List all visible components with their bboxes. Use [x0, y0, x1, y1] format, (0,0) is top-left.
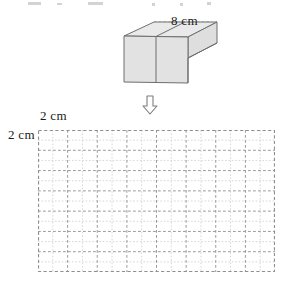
page-top-scan-artifact [0, 0, 292, 9]
solid-figure-two-cubes [96, 12, 222, 94]
arrow-down-outline-icon [139, 94, 161, 116]
worksheet-page: 8 cm 2 cm 2 cm [0, 0, 292, 291]
transition-arrow [139, 94, 161, 116]
grid-label-left-2cm: 2 cm [8, 127, 35, 143]
grid-label-top-2cm: 2 cm [40, 108, 67, 124]
arrow-down-shape [143, 96, 157, 114]
dimension-label-length: 8 cm [171, 13, 198, 29]
net-grid-svg [38, 130, 275, 272]
net-grid [38, 130, 275, 272]
solid-figure-svg [96, 12, 222, 94]
